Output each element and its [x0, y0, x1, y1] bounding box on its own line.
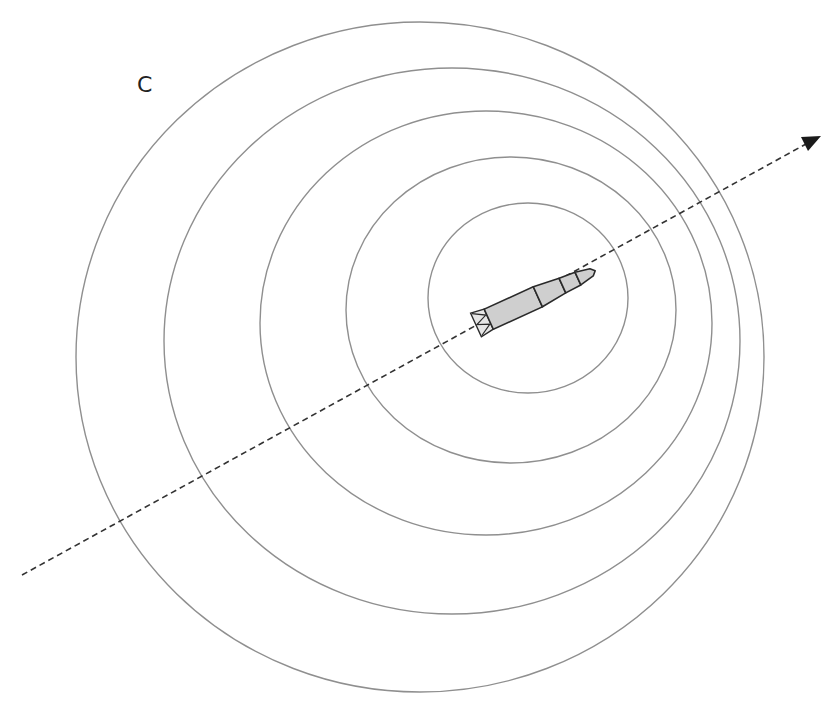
dashed-path: [22, 144, 806, 575]
figure-label: C: [137, 72, 152, 97]
rocket-icon: [471, 259, 601, 337]
trajectory-line: [22, 136, 821, 575]
arrow-head-icon: [801, 136, 821, 151]
rocket-stage-1: [484, 287, 542, 329]
wavefront-diagram: [0, 0, 838, 706]
